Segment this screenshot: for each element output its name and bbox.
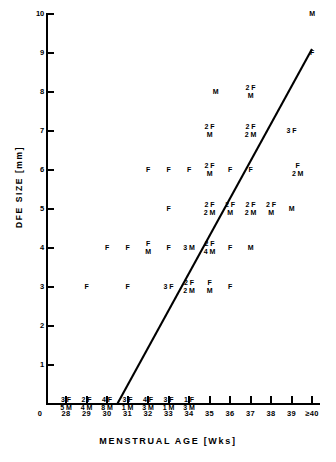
y-tick (48, 364, 54, 366)
data-point-label: M (199, 88, 233, 96)
y-tick-label: 2 (26, 321, 44, 330)
y-tick-label: 9 (26, 48, 44, 57)
y-tick-label: 5 (26, 204, 44, 213)
y-tick-label-wrap: 4 (22, 243, 44, 252)
y-tick (48, 325, 54, 327)
y-axis-title: DFE SIZE [mm] (14, 112, 24, 262)
y-tick-label: 1 (26, 360, 44, 369)
x-tick (311, 396, 313, 404)
y-tick-label: 7 (26, 126, 44, 135)
y-tick (48, 52, 54, 54)
y-tick-label-wrap: 5 (22, 204, 44, 213)
data-point-label: 2 F 2 M (234, 123, 268, 138)
y-tick (48, 247, 54, 249)
x-axis-title: MENSTRUAL AGE [Wks] (0, 436, 336, 446)
data-point-label: M (295, 10, 329, 18)
y-tick-label: 10 (26, 9, 44, 18)
x-tick (209, 396, 211, 404)
x-tick (250, 396, 252, 404)
y-tick (48, 130, 54, 132)
data-point-label: F (213, 283, 247, 291)
y-tick-label-wrap: 2 (22, 321, 44, 330)
y-tick-label-wrap: 6 (22, 165, 44, 174)
data-point-label: F (111, 283, 145, 291)
x-tick (229, 396, 231, 404)
regression-line (0, 0, 336, 462)
data-point-label: M (275, 205, 309, 213)
x-tick (291, 396, 293, 404)
y-tick (48, 169, 54, 171)
data-point-label: 3 F (275, 127, 309, 135)
data-point-label: F 2 M (281, 162, 315, 177)
scatter-plot-figure: 12345678910 0282930313233343536373839≥40… (0, 0, 336, 462)
y-tick (48, 286, 54, 288)
y-tick-label-wrap: 9 (22, 48, 44, 57)
y-tick-label: 6 (26, 165, 44, 174)
data-point-label: F (295, 49, 329, 57)
y-tick-label: 3 (26, 282, 44, 291)
x-tick (270, 396, 272, 404)
data-point-label: F (152, 205, 186, 213)
y-tick-label-wrap: 3 (22, 282, 44, 291)
data-point-label: F (234, 166, 268, 174)
y-tick-label: 8 (26, 87, 44, 96)
data-point-label: 2 F M (234, 84, 268, 99)
y-tick (48, 208, 54, 210)
y-tick-label-wrap: 7 (22, 126, 44, 135)
y-tick (48, 91, 54, 93)
data-point-label: M (234, 244, 268, 252)
x-tick-label: ≥40 (297, 409, 327, 418)
data-point-label: F (70, 283, 104, 291)
y-tick-label-wrap: 8 (22, 87, 44, 96)
data-point-label: 2 F M (193, 123, 227, 138)
y-tick-label: 4 (26, 243, 44, 252)
y-tick-label-wrap: 1 (22, 360, 44, 369)
y-tick (48, 13, 54, 15)
data-point-label: 1 F 3 M (172, 396, 206, 411)
y-tick-label-wrap: 10 (22, 9, 44, 18)
